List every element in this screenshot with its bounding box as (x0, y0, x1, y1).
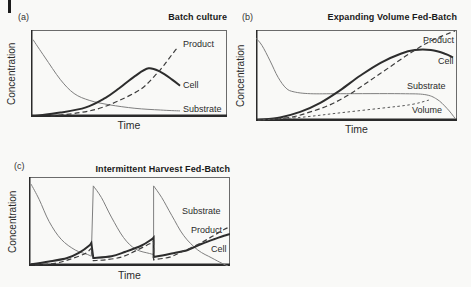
curve-label-cell-b: Cell (438, 56, 454, 66)
panel-tag-b: (b) (242, 12, 253, 22)
curve-label-substrate-a: Substrate (183, 104, 222, 114)
x-axis-label-b: Time (256, 123, 457, 135)
curve-label-cell-a: Cell (183, 80, 199, 90)
curve-label-product-a: Product (183, 39, 214, 49)
panel-batch-culture: (a) Batch culture Concentration Time Pro… (0, 0, 235, 143)
plot-area-c (29, 177, 230, 266)
curve-label-volume-b: Volume (412, 105, 442, 115)
x-axis-label-c: Time (29, 269, 230, 281)
y-axis-label-c: Concentration (7, 177, 18, 266)
curve-cell (33, 68, 180, 116)
curve-label-product-c: Product (191, 225, 222, 235)
curve-label-product-b: Product (423, 35, 454, 45)
panel-tag-a: (a) (18, 12, 29, 22)
panel-tag-c: (c) (14, 161, 25, 171)
y-axis-label-b: Concentration (235, 30, 246, 121)
panel-title-b: Expanding Volume Fed-Batch (256, 12, 457, 22)
curve-label-substrate-c: Substrate (182, 206, 221, 216)
y-axis-label-a: Concentration (6, 30, 17, 117)
curve-label-cell-c: Cell (211, 244, 227, 254)
x-axis-label-a: Time (31, 119, 227, 131)
curve-label-substrate-b: Substrate (407, 81, 446, 91)
panel-expanding-volume-fed-batch: (b) Expanding Volume Fed-Batch Concentra… (235, 0, 471, 143)
figure-bioreactor-culture-modes: (a) Batch culture Concentration Time Pro… (0, 0, 471, 287)
panel-title-a: Batch culture (31, 12, 227, 22)
curve-substrate (33, 40, 180, 111)
panel-title-c: Intermittent Harvest Fed-Batch (29, 164, 230, 174)
panel-intermittent-harvest-fed-batch: (c) Intermittent Harvest Fed-Batch Conce… (0, 143, 240, 287)
